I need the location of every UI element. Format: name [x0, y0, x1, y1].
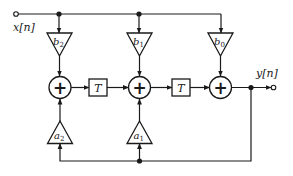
gain-b2: b2	[47, 33, 72, 56]
gain-b0: b0	[208, 33, 233, 56]
gain-b1: b1	[127, 33, 152, 56]
adder-right: +	[210, 77, 232, 99]
input-terminal	[14, 12, 19, 17]
adder-left: +	[49, 77, 71, 99]
gain-a1: a1	[127, 121, 152, 144]
plus-icon: +	[213, 78, 227, 98]
plus-icon: +	[53, 78, 67, 98]
delay-1: T	[89, 79, 107, 96]
output-terminal	[271, 85, 276, 90]
delay-2: T	[172, 79, 190, 96]
plus-icon: +	[132, 78, 146, 98]
input-label: x[n]	[13, 21, 36, 34]
adder-middle: +	[129, 77, 151, 99]
gain-a2: a2	[48, 121, 73, 144]
filter-diagram: x[n] b2 b1 b0 + + + T T	[0, 0, 293, 176]
input-node: x[n]	[13, 12, 221, 34]
output-label: y[n]	[255, 67, 279, 80]
